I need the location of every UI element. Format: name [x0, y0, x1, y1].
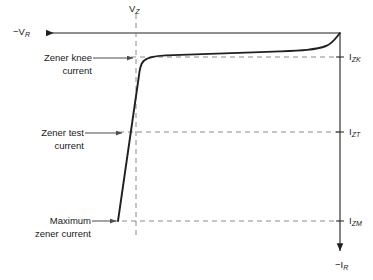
- izt-label: IZT: [349, 126, 360, 141]
- izk-label: IZK: [349, 51, 361, 66]
- zener-iv-curve: [118, 33, 340, 221]
- x-axis-label: −VR: [13, 26, 30, 41]
- zener-characteristic-figure: −VR −IR VZ Zener knee current Zener test…: [0, 0, 373, 280]
- y-axis-label: −IR: [335, 259, 348, 274]
- izm-label: IZM: [349, 215, 362, 230]
- zener-knee-current-label: Zener knee current: [0, 52, 92, 77]
- vz-label: VZ: [129, 3, 140, 18]
- maximum-zener-current-label: Maximum zener current: [0, 215, 91, 240]
- zener-test-current-label: Zener test current: [0, 127, 84, 152]
